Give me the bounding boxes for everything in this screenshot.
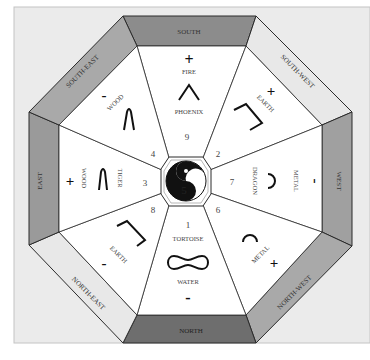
north-animal: TORTOISE — [173, 235, 204, 242]
north-west-polarity: + — [270, 255, 279, 271]
south-west-polarity: + — [267, 83, 276, 99]
south-element: FIRE — [182, 68, 196, 75]
direction-east: EAST — [36, 172, 44, 190]
north-element: WATER — [177, 278, 199, 285]
bagua-diagram: 5 SOUTH NORTH EAST WEST SOUTH-EAST SOUTH… — [0, 0, 370, 360]
direction-north: NORTH — [179, 327, 203, 335]
east-element: WOOD — [81, 168, 88, 189]
north-polarity: - — [185, 289, 190, 306]
east-polarity: + — [66, 173, 75, 189]
south-polarity: + — [184, 51, 193, 68]
north-east-number: 8 — [151, 205, 156, 215]
north-number: 1 — [186, 220, 191, 230]
west-number: 7 — [230, 177, 235, 187]
direction-south: SOUTH — [177, 28, 200, 36]
ring-east — [29, 112, 59, 245]
south-west-number: 2 — [216, 149, 221, 159]
west-polarity: - — [308, 179, 324, 184]
east-number: 3 — [143, 178, 148, 188]
direction-west: WEST — [335, 171, 343, 191]
east-animal: TIGER — [117, 168, 124, 188]
south-east-number: 4 — [151, 149, 156, 159]
center-number: 5 — [181, 184, 187, 196]
north-east-polarity: - — [102, 255, 107, 271]
north-west-number: 6 — [216, 205, 221, 215]
south-number: 9 — [185, 132, 190, 142]
west-element: METAL — [293, 170, 300, 192]
south-animal: PHOENIX — [175, 108, 204, 115]
west-animal: DRAGON — [252, 167, 259, 195]
south-east-polarity: - — [102, 87, 107, 103]
